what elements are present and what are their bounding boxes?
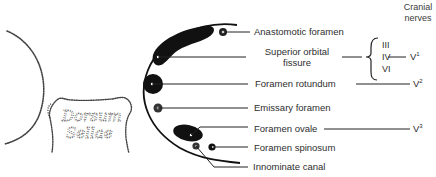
nerve-v2: V2 [413, 78, 423, 89]
nerve-v3: V3 [413, 123, 423, 134]
nerve-group-brace [366, 38, 378, 80]
label-foramen-rotundum: Foramen rotundum [255, 78, 336, 89]
nerve-v3-sup: 3 [419, 123, 422, 129]
cranial-nerves-header: Cranial nerves [398, 2, 436, 24]
label-foramen-ovale: Foramen ovale [254, 123, 317, 134]
diagram-canvas: Dorsum Sellae [0, 0, 436, 177]
label-foramen-spinosum: Foramen spinosum [254, 142, 335, 153]
anastomotic-dot [222, 31, 225, 34]
foramen-ovale-shape [172, 122, 205, 144]
label-sof-line-2: fissure [254, 57, 340, 68]
header-line-2: nerves [398, 13, 436, 24]
label-anastomotic-foramen: Anastomotic foramen [254, 26, 344, 37]
nerve-v2-sup: 2 [419, 78, 422, 84]
label-innominate-canal: Innominate canal [253, 161, 325, 172]
left-dotted-arc [5, 31, 44, 144]
label-emissary-foramen: Emissary foramen [254, 102, 331, 113]
label-superior-orbital-fissure: Superior orbital fissure [254, 46, 340, 68]
nerve-v1: V1 [410, 51, 420, 62]
nerve-iv: IV [382, 52, 391, 62]
nerve-iii: III [382, 40, 390, 50]
header-line-1: Cranial [398, 2, 436, 13]
dorsum-text-svg: Dorsum [61, 107, 122, 125]
label-sof-line-1: Superior orbital [254, 46, 340, 57]
nerve-vi: VI [382, 64, 391, 74]
superior-orbital-fissure-shape [153, 26, 214, 66]
sellae-text-svg: Sellae [66, 124, 113, 142]
diagram-artwork: Dorsum Sellae [0, 0, 436, 177]
greater-wing-curve [144, 24, 240, 163]
nerve-v1-sup: 1 [416, 51, 419, 57]
